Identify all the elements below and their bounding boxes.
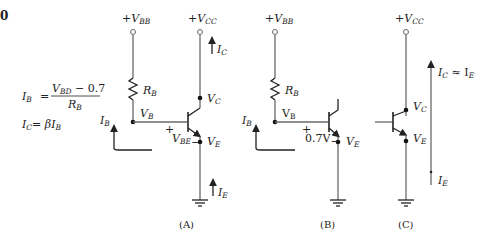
svg-text:VE: VE	[207, 135, 221, 149]
ib-loop-b	[256, 136, 295, 150]
svg-text:VBE−: VBE−	[172, 132, 200, 149]
circuit-a: +VBB RB VB +VCC VC IC VE + VBE−	[99, 12, 228, 230]
vc-node-a	[198, 96, 203, 101]
svg-text:+VCC: +VCC	[395, 12, 424, 26]
svg-text:RB: RB	[142, 84, 157, 98]
svg-text:IE: IE	[437, 174, 448, 188]
circuit-b: +VBB RB VB VE + 0.7V− IB (B)	[241, 12, 360, 230]
bjt-bias-diagram: 0 IB = VBD − 0.7 RB IC= βIB +VBB RB VB +…	[0, 0, 484, 242]
svg-text:IC: IC	[216, 43, 227, 57]
equation-ib: IB = VBD − 0.7 RB	[21, 82, 105, 112]
svg-text:VB: VB	[140, 107, 154, 121]
svg-text:IB: IB	[99, 114, 110, 128]
resistor-rb-b	[271, 78, 279, 100]
svg-text:IC= βIB: IC= βIB	[21, 118, 62, 132]
caption-b: (B)	[320, 219, 335, 230]
svg-text:RB: RB	[284, 84, 299, 98]
svg-text:0.7V−: 0.7V−	[305, 132, 340, 148]
vbb-terminal-a	[131, 30, 136, 35]
svg-text:VB: VB	[281, 107, 296, 121]
figure-number: 0	[0, 9, 8, 23]
ground-icon-a	[192, 200, 208, 206]
caption-a: (A)	[179, 219, 194, 230]
svg-text:VC: VC	[207, 92, 221, 106]
svg-text:VE: VE	[413, 132, 427, 146]
resistor-rb-a	[129, 78, 137, 100]
svg-text:IB: IB	[241, 114, 252, 128]
ib-loop-a	[114, 136, 152, 150]
vcc-terminal-c	[404, 30, 409, 35]
svg-text:+VCC: +VCC	[188, 12, 217, 26]
svg-text:RB: RB	[67, 98, 82, 112]
circuit-c: +VCC VC VE IC ≈ IE IE (C)	[375, 12, 475, 230]
ground-icon-c	[398, 200, 414, 206]
vcc-terminal-a	[198, 30, 203, 35]
npn-transistor-a	[188, 108, 200, 135]
svg-text:VE: VE	[346, 135, 360, 149]
npn-transistor-c	[375, 111, 406, 134]
svg-text:IB: IB	[21, 90, 32, 104]
svg-text:IE: IE	[217, 186, 228, 200]
ground-icon-b	[330, 200, 346, 206]
svg-text:+VBB: +VBB	[265, 12, 294, 26]
ve-node-c	[404, 139, 409, 144]
svg-text:VC: VC	[413, 100, 427, 114]
npn-transistor-b	[329, 99, 338, 135]
vbb-label-a: +VBB	[122, 12, 151, 26]
vbb-terminal-b	[273, 30, 278, 35]
svg-text:VBD − 0.7: VBD − 0.7	[52, 82, 105, 96]
svg-text:IC ≈ IE: IC ≈ IE	[437, 66, 475, 80]
caption-c: (C)	[398, 219, 414, 230]
equation-ic: IC= βIB	[21, 118, 62, 132]
svg-text:=: =	[40, 90, 49, 103]
